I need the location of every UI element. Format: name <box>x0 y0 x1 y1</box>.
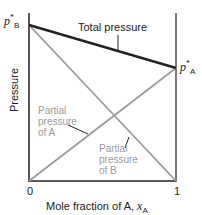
partial-pressure-a-annotation: Partial pressure of A <box>38 105 78 138</box>
total-pressure-annotation: Total pressure <box>78 22 147 33</box>
x-tick-0: 0 <box>27 186 33 197</box>
x-axis-label: Mole fraction of A, xA <box>46 200 148 215</box>
y-axis-label: Pressure <box>9 68 20 112</box>
partial-pressure-b-annotation: Partial pressure of B <box>99 143 139 176</box>
pB-star-label: p*B <box>4 14 19 30</box>
x-tick-1: 1 <box>174 186 180 197</box>
pA-star-label: p*A <box>180 60 195 76</box>
